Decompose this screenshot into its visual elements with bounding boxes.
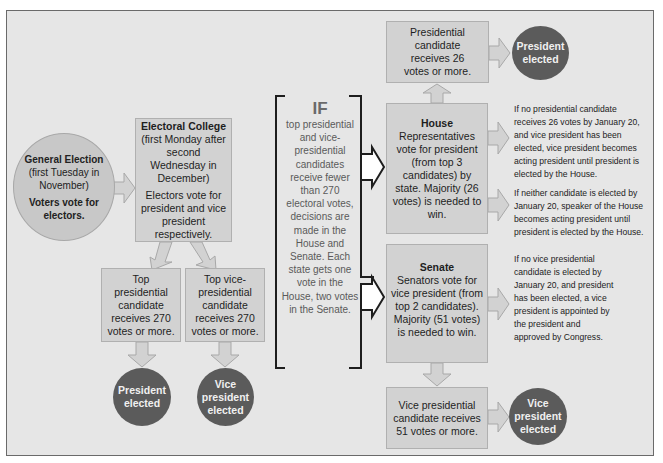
general-election-action: Voters vote for electors. xyxy=(29,196,99,222)
senate-text: Senators vote for vice president (from t… xyxy=(390,274,484,339)
arrow-right-icon xyxy=(488,122,509,154)
vp-elected-left: Vice president elected xyxy=(197,368,254,426)
arrow-down-left-icon xyxy=(150,242,172,270)
electoral-college-title: Electoral College xyxy=(141,120,226,133)
note-neither-elected: If neither candidate is elected by Janua… xyxy=(514,187,652,239)
house-title: House xyxy=(421,117,453,130)
senate-win-text: Vice presidential candidate receives 51 … xyxy=(390,399,484,438)
top-vp-box: Top vice-presidential candidate receives… xyxy=(185,268,265,342)
electoral-college-action: Electors vote for president and vice pre… xyxy=(139,189,228,241)
arrow-down-right-icon xyxy=(190,242,216,270)
house-box: House Representatives vote for president… xyxy=(386,103,488,234)
arrow-right-icon xyxy=(488,189,509,221)
vp-elected-right-label: Vice president elected xyxy=(513,397,563,436)
condition-block: IF top presidential and vice-presidentia… xyxy=(281,100,359,316)
general-election-title: General Election xyxy=(25,153,104,166)
electoral-college-date: (first Monday after second Wednesday in … xyxy=(139,133,228,185)
house-text: Representatives vote for president (from… xyxy=(390,130,484,221)
senate-title: Senate xyxy=(420,261,454,274)
top-president-box: Top presidential candidate receives 270 … xyxy=(101,268,181,342)
condition-text: top presidential and vice-presidential c… xyxy=(281,118,359,316)
president-elected-left-label: President elected xyxy=(118,384,166,410)
note-no-president: If no presidential candidate receives 26… xyxy=(514,103,650,181)
vp-elected-right: Vice president elected xyxy=(509,388,567,445)
arrow-right-icon xyxy=(113,173,135,203)
arrow-down-icon xyxy=(423,363,451,386)
senate-box: Senate Senators vote for vice president … xyxy=(386,244,488,363)
electoral-college-box: Electoral College (first Monday after se… xyxy=(135,118,232,242)
house-win-box: Presidential candidate receives 26 votes… xyxy=(386,21,489,83)
arrow-down-icon xyxy=(128,342,156,367)
president-elected-left: President elected xyxy=(113,368,171,426)
arrow-right-icon xyxy=(488,402,509,432)
arrow-right-icon xyxy=(488,288,509,320)
senate-win-box: Vice presidential candidate receives 51 … xyxy=(386,387,488,449)
arrow-right-icon xyxy=(489,38,510,68)
note-no-vice-president: If no vice presidential candidate is ele… xyxy=(514,253,614,344)
president-elected-top: President elected xyxy=(512,26,569,80)
top-president-text: Top presidential candidate receives 270 … xyxy=(105,273,177,338)
top-vp-text: Top vice-presidential candidate receives… xyxy=(189,273,261,338)
president-elected-top-label: President elected xyxy=(517,40,565,66)
arrow-up-icon xyxy=(423,84,451,103)
condition-label: IF xyxy=(281,100,359,118)
house-win-text: Presidential candidate receives 26 votes… xyxy=(397,26,478,78)
general-election-node: General Election (first Tuesday in Novem… xyxy=(13,133,115,241)
general-election-date: (first Tuesday in November) xyxy=(24,166,104,192)
vp-elected-left-label: Vice president elected xyxy=(201,378,250,417)
arrow-down-icon xyxy=(211,342,239,367)
